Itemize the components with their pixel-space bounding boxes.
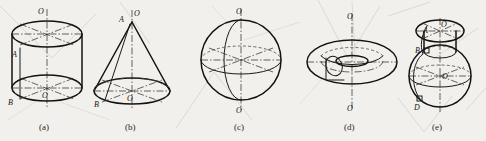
label-vessel-a: A	[422, 26, 428, 35]
caption-b: (b)	[125, 122, 136, 132]
label-cone-axis-o: O	[134, 9, 140, 18]
caption-a: (a)	[39, 122, 49, 132]
label-cylinder-a: A	[11, 50, 17, 59]
label-vessel-body-o: O	[442, 72, 448, 81]
caption-d: (d)	[344, 122, 355, 132]
figure-plate: .ink{fill:none;stroke:#141210;stroke-wid…	[0, 0, 486, 141]
label-sphere-axis-top: O	[236, 7, 242, 16]
label-cylinder-axis-top: O	[38, 7, 44, 16]
label-vessel-d: D	[413, 103, 420, 112]
caption-c: (c)	[234, 122, 244, 132]
label-cone-apex-a: A	[118, 15, 124, 24]
label-cylinder-center-o: O	[42, 91, 48, 100]
label-sphere-axis-bottom: O	[236, 106, 242, 115]
label-cylinder-b: B	[8, 98, 13, 107]
label-torus-axis-top: O	[347, 12, 353, 21]
label-vessel-neck-o: O	[441, 20, 447, 29]
label-torus-axis-bottom: O	[347, 104, 353, 113]
label-cone-base-o: O	[127, 94, 133, 103]
caption-e: (e)	[432, 122, 442, 132]
label-cone-base-b: B	[94, 100, 99, 109]
label-vessel-b: B	[415, 46, 420, 55]
